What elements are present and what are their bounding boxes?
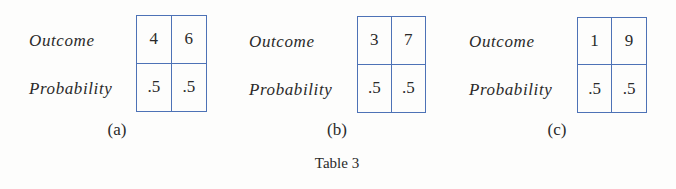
outcome-probability-grid: 1 9 .5 .5 (577, 17, 647, 113)
panel-sublabel: (c) (527, 120, 587, 140)
outcome-cell: 3 (358, 17, 392, 65)
probability-row-label: Probability (469, 80, 552, 100)
probability-cell: .5 (392, 65, 426, 113)
outcome-probability-grid: 4 6 .5 .5 (136, 15, 207, 112)
outcome-probability-grid: 3 7 .5 .5 (357, 16, 426, 113)
probability-cell: .5 (137, 64, 172, 112)
table-caption: Table 3 (277, 155, 397, 172)
panel-sublabel: (a) (87, 120, 147, 140)
outcome-row-label: Outcome (29, 31, 95, 51)
outcome-cell: 6 (172, 16, 207, 64)
outcome-cell: 1 (578, 18, 612, 65)
probability-cell: .5 (612, 65, 646, 112)
outcome-row-label: Outcome (249, 32, 315, 52)
probability-row-label: Probability (249, 80, 332, 100)
outcome-cell: 7 (392, 17, 426, 65)
probability-row-label: Probability (29, 79, 112, 99)
outcome-cell: 9 (612, 18, 646, 65)
outcome-cell: 4 (137, 16, 172, 64)
panel-sublabel: (b) (307, 120, 367, 140)
probability-cell: .5 (358, 65, 392, 113)
probability-cell: .5 (578, 65, 612, 112)
probability-cell: .5 (172, 64, 207, 112)
outcome-row-label: Outcome (469, 32, 535, 52)
